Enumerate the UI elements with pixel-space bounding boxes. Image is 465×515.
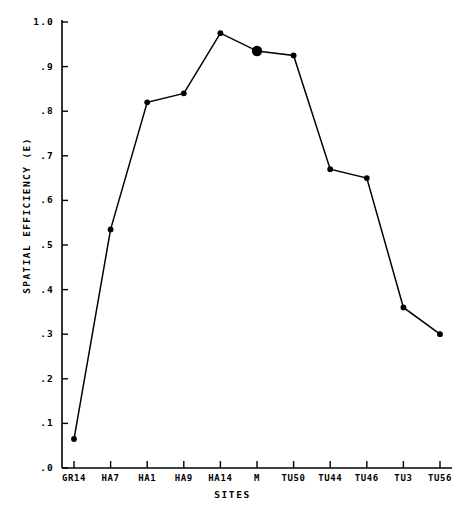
data-point-marker <box>144 99 150 105</box>
data-point-marker <box>364 175 370 181</box>
data-point-marker <box>327 166 333 172</box>
y-axis-tick-label: .4 <box>18 284 54 295</box>
y-axis-tick-label: .1 <box>18 417 54 428</box>
x-axis-tick-label: TU46 <box>355 473 379 483</box>
x-axis-tick-label: HA1 <box>138 473 156 483</box>
data-point-marker <box>71 436 77 442</box>
y-axis-tick-label: .7 <box>18 150 54 161</box>
x-axis-tick-label: TU44 <box>318 473 342 483</box>
x-axis-tick-label: HA7 <box>102 473 120 483</box>
y-axis-tick-label: .5 <box>18 239 54 250</box>
y-axis-tick-label: .3 <box>18 328 54 339</box>
x-axis-tick-label: TU3 <box>394 473 412 483</box>
data-point-marker <box>108 226 114 232</box>
chart-figure: SPATIAL EFFICIENCY (E) SITES 1.0.9.8.7.6… <box>0 0 465 515</box>
y-axis-tick-label: .9 <box>18 61 54 72</box>
y-axis-tick-label: 1.0 <box>18 16 54 27</box>
y-axis-tick-label: .2 <box>18 373 54 384</box>
data-point-marker <box>437 331 443 337</box>
data-point-marker <box>218 30 224 36</box>
data-point-marker <box>252 46 262 56</box>
x-axis-tick-label: GR14 <box>62 473 86 483</box>
y-axis-tick-label: .8 <box>18 105 54 116</box>
x-axis-tick-label: HA14 <box>208 473 232 483</box>
data-point-marker <box>181 90 187 96</box>
x-axis-tick-label: M <box>254 473 260 483</box>
y-axis-tick-label: .6 <box>18 194 54 205</box>
y-axis-tick-label: .0 <box>18 462 54 473</box>
data-point-marker <box>401 305 407 311</box>
x-axis-tick-label: TU50 <box>282 473 306 483</box>
x-axis-tick-label: HA9 <box>175 473 193 483</box>
data-line-series <box>74 33 440 439</box>
x-axis-tick-label: TU56 <box>428 473 452 483</box>
line-chart-plot <box>0 0 465 515</box>
data-point-marker <box>291 53 297 59</box>
